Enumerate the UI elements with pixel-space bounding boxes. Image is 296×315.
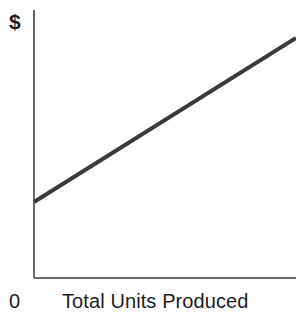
x-axis-origin-label: 0 [9,291,20,311]
x-axis-title: Total Units Produced [62,291,249,311]
cost-behavior-chart: $ 0 Total Units Produced [0,0,296,315]
chart-background [0,0,296,315]
chart-plot-area [0,0,296,315]
y-axis-title: $ [9,11,21,32]
